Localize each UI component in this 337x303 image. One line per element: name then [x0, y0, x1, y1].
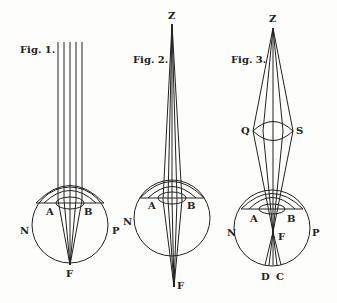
fig1-label-b: B — [84, 207, 92, 217]
fig2-label-f: F — [177, 281, 184, 291]
fig2-label-z: Z — [168, 11, 175, 21]
fig1-label-n: N — [20, 226, 29, 236]
fig2-title: Fig. 2. — [133, 55, 168, 65]
fig1-drawing — [32, 42, 108, 265]
fig1-label-a: A — [46, 207, 54, 217]
fig1-title: Fig. 1. — [20, 45, 55, 55]
fig1-label-p: P — [112, 226, 120, 236]
fig2-label-a: A — [148, 201, 156, 211]
fig2-label-b: B — [187, 201, 195, 211]
fig1-label-f: F — [66, 269, 73, 279]
fig3-label-b: B — [287, 214, 295, 224]
fig3-label-p: P — [312, 228, 320, 238]
fig3-label-z: Z — [269, 14, 276, 24]
optics-diagram: Fig. 1. A B N P F Z Fig. 2. A B N F Z Fi… — [0, 0, 337, 303]
fig3-label-q: Q — [241, 126, 250, 136]
fig3-label-f: F — [278, 232, 285, 242]
fig3-label-s: S — [296, 126, 303, 136]
fig3-label-d: D — [261, 272, 270, 282]
fig3-title: Fig. 3. — [231, 55, 266, 65]
fig3-label-c: C — [276, 272, 284, 282]
fig3-label-a: A — [250, 214, 258, 224]
fig2-label-n: N — [123, 217, 132, 227]
fig3-label-n: N — [227, 228, 236, 238]
